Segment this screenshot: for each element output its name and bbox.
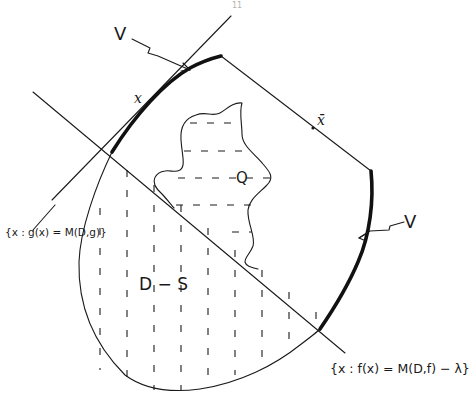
arrow-v-upper <box>132 39 190 70</box>
label-region-q: Q <box>236 169 248 187</box>
region-upper-right-edge <box>221 56 371 171</box>
region-q-hatching <box>176 123 272 232</box>
label-point-x: x <box>134 90 142 106</box>
arc-v-right <box>320 171 372 329</box>
arc-v-upper <box>112 56 221 152</box>
page-number: 11 <box>232 1 242 10</box>
point-x-bar <box>311 126 314 129</box>
region-lower-boundary <box>79 152 320 391</box>
label-point-x-bar: x̄ <box>317 112 325 128</box>
region-q-outline <box>154 103 271 269</box>
line-f-level-set <box>33 92 345 353</box>
label-region-d-minus-s: D − S <box>139 274 188 294</box>
math-figure: 11 V V x x̄ Q <box>0 0 475 406</box>
label-f-level-set: {x : f(x) = M(D,f) − λ} <box>330 361 470 376</box>
label-v-upper: V <box>114 23 127 44</box>
label-g-level-set: {x : g(x) = M(D,g)} <box>5 226 107 238</box>
label-v-right: V <box>404 211 417 232</box>
